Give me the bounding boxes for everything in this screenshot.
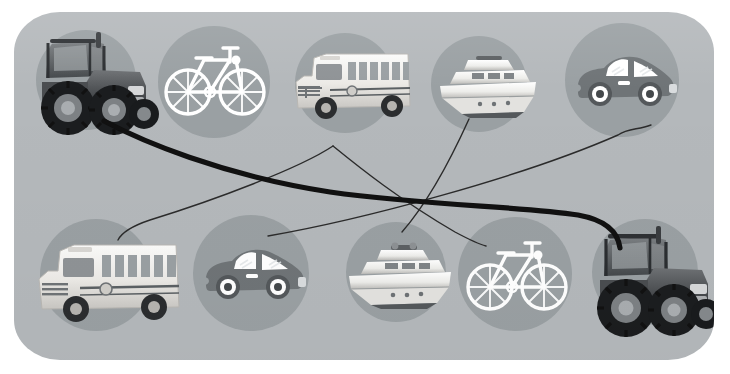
school-bus-photo-icon xyxy=(290,46,412,128)
item-bot-2-car[interactable] xyxy=(198,240,308,308)
item-top-4-yacht[interactable] xyxy=(432,54,542,120)
scene-canvas xyxy=(0,0,730,374)
item-bot-3-yacht[interactable] xyxy=(341,242,457,310)
item-top-1-tractor[interactable] xyxy=(28,30,154,140)
item-bot-1-school-bus[interactable] xyxy=(32,235,182,333)
school-bus-photo-icon xyxy=(32,235,182,333)
car-icon xyxy=(198,240,308,308)
item-bot-5-tractor[interactable] xyxy=(582,224,714,340)
item-bot-4-bicycle[interactable] xyxy=(465,230,569,322)
item-top-5-car[interactable] xyxy=(570,48,678,114)
bicycle-icon xyxy=(164,36,266,126)
puzzle-panel xyxy=(14,12,714,360)
tractor-photo-icon xyxy=(582,224,714,340)
item-top-3-school-bus[interactable] xyxy=(290,46,412,128)
tractor-photo-icon xyxy=(28,30,154,140)
yacht-photo-icon xyxy=(341,242,457,310)
item-top-2-bicycle[interactable] xyxy=(164,36,266,126)
yacht-photo-icon xyxy=(432,54,542,120)
bicycle-icon xyxy=(465,230,569,322)
car-icon xyxy=(570,48,678,114)
